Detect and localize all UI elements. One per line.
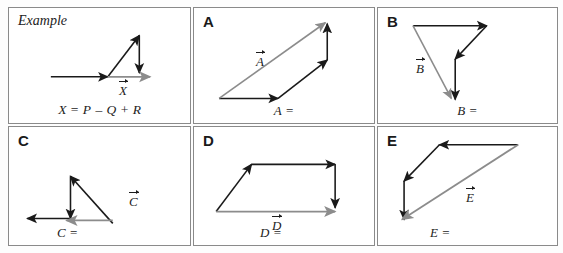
vector-arrow-E2 [404, 145, 439, 181]
vector-arrow-C1 [70, 176, 112, 223]
example-equation: X = P – Q + R [9, 102, 190, 118]
problem-cell-D[interactable]: D D D = [193, 126, 375, 246]
vector-label-E: E [466, 189, 474, 204]
problem-cell-B[interactable]: B B B = [377, 7, 558, 124]
vector-arrow-Q [108, 36, 139, 77]
problem-cell-example[interactable]: Example X X = P – Q + R [8, 7, 191, 124]
vector-arrow-D1 [216, 164, 251, 211]
answer-line-E[interactable]: E = [378, 225, 558, 241]
vector-problem-grid: Example X X = P – Q + R [8, 7, 554, 246]
vector-arrow-A2 [278, 60, 327, 98]
vector-arrow-B2 [455, 26, 486, 59]
problem-cell-C[interactable]: C C C = [8, 126, 191, 246]
answer-line-B[interactable]: B = [378, 103, 557, 119]
vector-arrow-E-resultant [402, 145, 518, 220]
vector-arrow-A-resultant [219, 23, 325, 99]
vector-label-B: B [416, 60, 424, 75]
vector-label-A: A [256, 53, 264, 68]
problem-cell-A[interactable]: A A A = [193, 7, 375, 124]
problem-cell-E[interactable]: E E E = [377, 126, 558, 246]
worksheet-sheet: Example X X = P – Q + R [0, 0, 563, 253]
vector-label-X: X [119, 82, 127, 97]
answer-line-C[interactable]: C = [9, 225, 191, 241]
answer-line-A[interactable]: A = [194, 103, 374, 119]
answer-line-D[interactable]: D = [194, 225, 375, 241]
vector-label-C: C [129, 193, 138, 208]
